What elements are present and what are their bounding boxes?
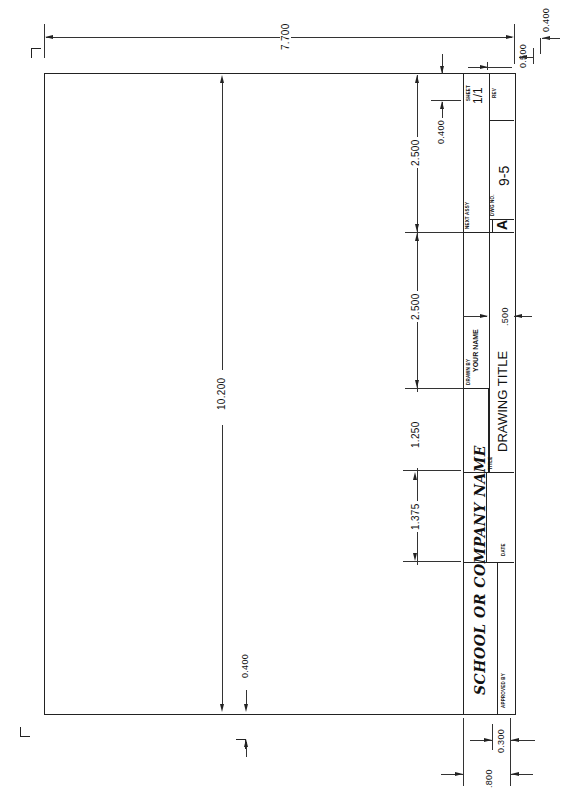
title-value: DRAWING TITLE [495,351,510,452]
row-divider-sheet [489,120,514,121]
arrow-right-icon [480,314,488,318]
arrow-down-icon [413,553,417,561]
ext-2500-a [405,232,463,233]
dim-line-0400 [542,38,560,39]
arrow-down-icon [415,224,419,232]
dim-7700: 7.700 [280,21,291,52]
arrow-up-icon [244,739,248,747]
dim-0400-sheet: 0.400 [436,118,446,146]
dim-2500-b: 2.500 [410,291,421,322]
dim-line-7700 [46,37,512,38]
dwg-no-label: DWG NO. [490,194,495,216]
arrow-right-icon [506,35,514,39]
arrow-right-icon [455,772,463,776]
title-block-mid-line [489,74,490,472]
title-block-sheet-divider [489,74,490,120]
dim-line-0400-right [519,57,533,58]
next-assy-label: NEXT ASSY [465,202,470,229]
row-divider-title [463,472,514,473]
dim-1250: 1.250 [410,419,421,450]
arrow-down-icon [415,380,419,388]
ext-line-0400-b [540,38,541,54]
dim-1375: 1.375 [410,501,421,532]
crop-mark-top-left [31,48,41,58]
arrow-left-icon [514,314,522,318]
ext-line-0500-tick [487,62,488,70]
dim-0400-top: 0.400 [541,6,551,34]
arrow-left-icon [511,738,519,742]
drawn-by-label: DRAWN BY [466,359,471,385]
ext-0400-sheet [431,100,461,101]
ext-line-7700-left [44,24,45,58]
ext-300-mid [492,724,493,750]
dwg-no-value: 9-5 [496,166,512,186]
dim-2500-a: 2.500 [410,137,421,168]
ext-1375 [403,561,461,562]
dim-line-10200-lower [222,425,223,707]
arrow-up-icon [415,233,419,241]
crop-mark-bottom-left [20,727,30,737]
arrow-down-icon [440,66,444,74]
dim-800: .800 [484,767,494,790]
arrow-up-icon [415,75,419,83]
rev-label: REV [492,88,497,98]
drawn-by-value: YOUR NAME [472,329,479,372]
dim-line-0500 [470,67,480,68]
title-block-a-divider [492,219,493,232]
title-label: TITLE [488,457,493,471]
dim-0400-left: 0.400 [240,652,250,680]
arrow-down-icon [244,704,248,712]
dim-500: .500 [500,305,510,328]
approved-by-label: APPROVED BY [501,673,506,708]
size-value: A [494,220,510,230]
arrow-up-icon [413,472,417,480]
arrow-up-icon [440,101,444,109]
dim-10200: 10.200 [216,376,227,412]
row-divider-drawnby [463,388,489,389]
ext-1250 [403,470,461,471]
ext-line-0400 [533,48,534,64]
date-label: DATE [501,543,506,556]
ext-line-7700-right [514,24,515,64]
sheet-value: 1/1 [471,87,485,104]
title-block-inner-line [497,562,498,714]
arrow-right-icon [484,738,492,742]
title-block-left-line [463,74,464,714]
drawing-border [44,73,516,715]
arrow-up-icon [220,75,224,83]
ext-800-left [463,718,464,786]
row-divider-nextassy [463,232,514,233]
ext-2500-b [405,388,463,389]
arrow-left-icon [45,35,53,39]
company-name: SCHOOL OR COMPANY NAME [472,445,488,695]
arrow-down-icon [220,704,224,712]
dim-0300: 0.300 [496,727,506,755]
dim-line-10200-upper [222,80,223,370]
row-divider-company [463,562,514,563]
arrow-left-icon [511,772,519,776]
